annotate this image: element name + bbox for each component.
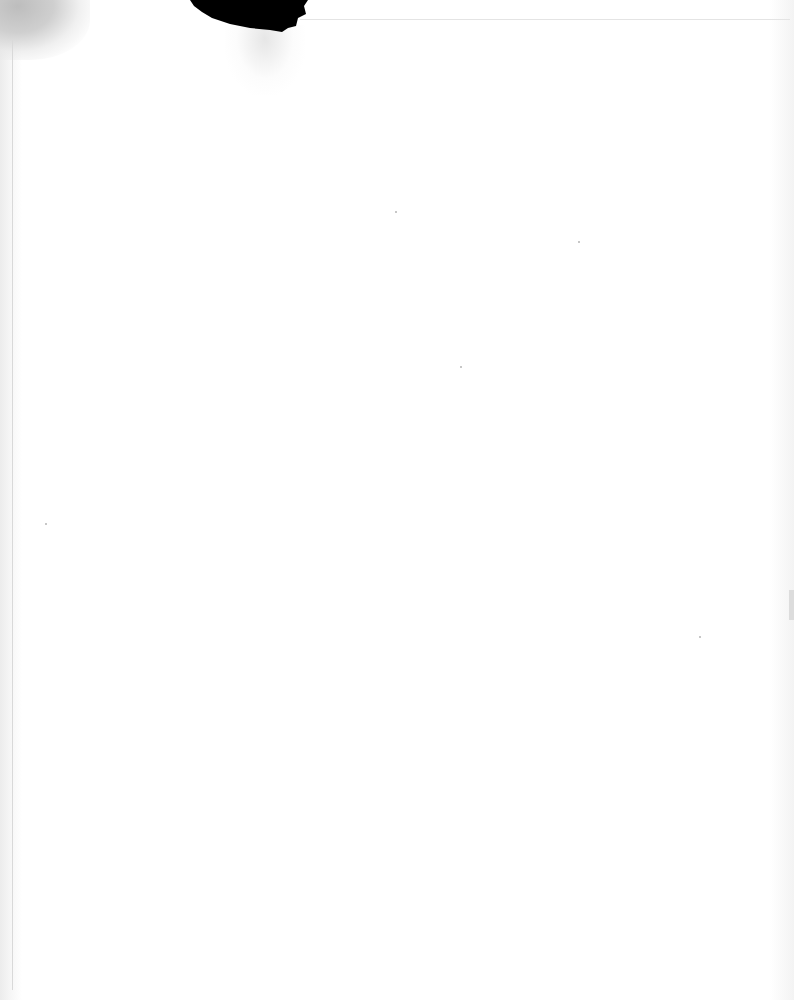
paper-stain xyxy=(0,0,90,60)
edge-mark xyxy=(789,590,794,620)
torn-damage-area xyxy=(190,0,308,32)
paper-smudge xyxy=(225,25,305,95)
speck xyxy=(578,241,580,243)
speck xyxy=(45,523,47,525)
speck xyxy=(395,211,397,213)
speck xyxy=(699,636,701,638)
page-top-border xyxy=(300,19,790,20)
blank-scanned-page xyxy=(0,0,794,1000)
speck xyxy=(460,366,462,368)
page-left-border xyxy=(12,40,13,990)
